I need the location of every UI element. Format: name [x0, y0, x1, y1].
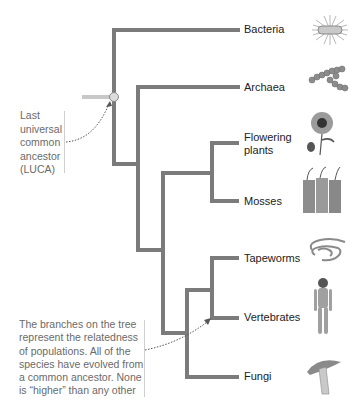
luca-arrow [66, 104, 109, 142]
moss-icon [303, 167, 341, 213]
branch-archaea [138, 87, 238, 250]
branch-tapeworms-vertebrates [212, 258, 237, 318]
luca-arrow-head [106, 101, 112, 107]
taxon-label-mosses: Mosses [244, 195, 282, 208]
tapeworm-icon [311, 239, 345, 260]
branch-plants-mosses [212, 143, 237, 201]
human-figure-icon [314, 278, 332, 334]
luca-annotation: Last universal common ancestor (LUCA) [20, 109, 62, 177]
sunflower-icon [307, 112, 334, 155]
taxon-label-archaea: Archaea [244, 81, 285, 94]
branches-arrow [145, 322, 207, 350]
mushroom-icon [307, 360, 341, 394]
taxon-label-bacteria: Bacteria [244, 23, 284, 36]
archaea-chain-icon [309, 66, 348, 91]
branches-annotation: The branches on the tree represent the r… [19, 318, 143, 398]
taxon-label-tapeworms: Tapeworms [244, 252, 300, 265]
taxon-label-vertebrates: Vertebrates [244, 311, 300, 324]
branches-annotation-rule [144, 320, 145, 397]
bacterium-icon [312, 15, 348, 45]
luca-marker [110, 93, 119, 102]
branches-arrow-head [204, 318, 211, 325]
taxon-label-flowering-plants: Flowering plants [244, 131, 292, 157]
taxon-label-fungi: Fungi [244, 370, 272, 383]
luca-annotation-rule [64, 111, 65, 173]
